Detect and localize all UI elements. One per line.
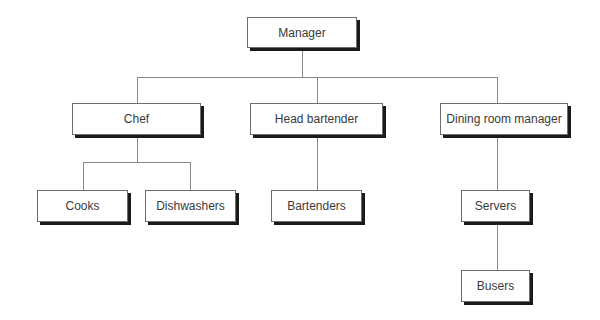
connector-chef-down [137,134,138,162]
node-busers: Busers [461,270,530,302]
connector-to-servers [497,134,498,190]
connector-to-head-bartender [317,77,318,103]
connector-to-bartenders [317,134,318,190]
node-servers: Servers [461,190,530,222]
connector-to-chef [137,77,138,103]
node-cooks: Cooks [37,190,128,222]
connector-to-dining-room-manager [497,77,498,103]
connector-chef-bus [83,162,191,163]
node-manager: Manager [247,17,357,48]
connector-to-cooks [83,162,84,190]
node-head-bartender: Head bartender [250,103,383,135]
connector-to-dishwashers [190,162,191,190]
node-chef: Chef [72,103,201,135]
org-chart: Manager Chef Head bartender Dining room … [0,0,600,320]
connector-manager-down [302,47,303,77]
node-dining-room-manager: Dining room manager [440,103,568,135]
node-dishwashers: Dishwashers [145,190,236,222]
node-bartenders: Bartenders [271,190,362,222]
connector-to-busers [497,222,498,270]
